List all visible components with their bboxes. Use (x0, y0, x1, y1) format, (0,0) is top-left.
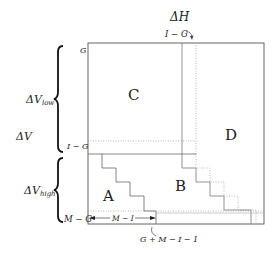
delta-v-low-label: ΔVlow (25, 93, 54, 107)
region-b-label: B (175, 177, 186, 195)
brace-delta-v-low-icon (54, 46, 63, 152)
top-i-minus-g-label: I − G (164, 29, 188, 39)
g-plus-m-minus-i-minus-1-label: G + M − I − 1 (140, 235, 198, 244)
left-label-m-minus-g: M − G (63, 214, 92, 224)
top-pointer-arrowhead-icon (190, 36, 194, 41)
delta-v-label: ΔV (15, 130, 33, 143)
staircase-b-boundary-dotted (196, 154, 256, 224)
region-c-label: C (128, 86, 139, 104)
m-minus-i-arrow-right-icon (150, 216, 156, 220)
matrix-outer-box (88, 43, 264, 224)
delta-h-label: ΔH (169, 10, 190, 24)
left-label-i-minus-g: I − G (66, 142, 89, 151)
matrix-partition-diagram: ΔH I − G C D A B G I − G M − G ΔVlow ΔV … (0, 0, 279, 255)
region-d-label: D (225, 126, 237, 144)
m-minus-i-label: M − I (111, 214, 135, 223)
delta-v-high-label: ΔVhigh (23, 184, 56, 198)
left-label-g: G (80, 46, 87, 55)
region-a-label: A (102, 187, 114, 205)
staircase-b-boundary-solid (182, 154, 251, 224)
